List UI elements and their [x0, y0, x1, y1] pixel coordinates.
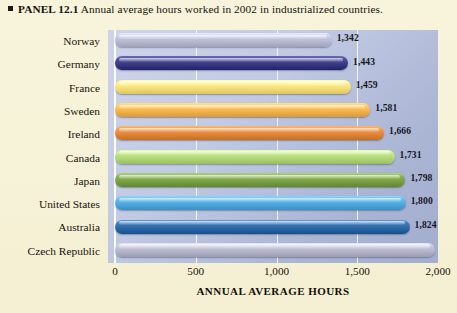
category-label-canada: Canada — [66, 147, 100, 170]
x-axis-title: ANNUAL AVERAGE HOURS — [108, 285, 438, 297]
bar-germany — [115, 56, 348, 70]
bar-series: 1,3421,4431,4591,5811,6661,7311,7981,800… — [108, 30, 438, 263]
bar-value-label: 1,581 — [375, 102, 397, 113]
bar-row: 1,798 — [108, 170, 438, 193]
category-label-japan: Japan — [74, 170, 100, 193]
bar-row: 1,581 — [108, 100, 438, 123]
bar-value-label: 1,824 — [415, 219, 437, 230]
bar-australia — [115, 220, 410, 234]
x-tick-1000: 1,000 — [264, 265, 289, 277]
bar-czech-republic — [115, 243, 435, 257]
bar-japan — [115, 173, 405, 187]
bar-france — [115, 80, 351, 94]
bar-value-label: 1,731 — [400, 149, 422, 160]
x-tick-1500: 1,500 — [345, 265, 370, 277]
x-tick-0: 0 — [112, 265, 118, 277]
category-label-france: France — [69, 77, 100, 100]
panel-caption: PANEL 12.1 Annual average hours worked i… — [8, 3, 447, 17]
bar-canada — [115, 150, 395, 164]
bar-united-states — [115, 196, 406, 210]
bar-ireland — [115, 126, 384, 140]
value-axis-ticks: 05001,0001,5002,000 — [108, 265, 438, 281]
bar-value-label: 1,443 — [353, 56, 375, 67]
category-label-ireland: Ireland — [68, 123, 100, 146]
chart-plot-area: 1,3421,4431,4591,5811,6661,7311,7981,800… — [108, 30, 438, 263]
category-axis-labels: NorwayGermanyFranceSwedenIrelandCanadaJa… — [0, 30, 104, 263]
panel-caption-text: Annual average hours worked in 2002 in i… — [81, 3, 383, 15]
x-tick-500: 500 — [187, 265, 204, 277]
bar-row: 1,980 — [108, 240, 438, 263]
category-label-sweden: Sweden — [64, 100, 100, 123]
bar-row: 1,342 — [108, 30, 438, 53]
bar-row: 1,800 — [108, 193, 438, 216]
bar-row: 1,731 — [108, 147, 438, 170]
square-bullet-icon — [8, 6, 13, 11]
category-label-norway: Norway — [63, 30, 100, 53]
category-label-czech-republic: Czech Republic — [28, 240, 100, 263]
bar-value-label: 1,798 — [410, 172, 432, 183]
bar-value-label: 1,342 — [337, 32, 359, 43]
bar-row: 1,459 — [108, 77, 438, 100]
bar-norway — [115, 33, 332, 47]
page-root: PANEL 12.1 Annual average hours worked i… — [0, 0, 457, 313]
category-label-united-states: United States — [39, 193, 100, 216]
category-label-australia: Australia — [58, 216, 100, 239]
x-tick-2000: 2,000 — [425, 265, 450, 277]
panel-number-label: PANEL 12.1 — [18, 3, 78, 15]
bar-value-label: 1,800 — [411, 195, 433, 206]
category-label-germany: Germany — [58, 53, 100, 76]
bar-value-label: 1,459 — [356, 79, 378, 90]
bar-row: 1,443 — [108, 53, 438, 76]
bar-sweden — [115, 103, 370, 117]
bar-row: 1,824 — [108, 216, 438, 239]
bar-row: 1,666 — [108, 123, 438, 146]
bar-value-label: 1,666 — [389, 125, 411, 136]
